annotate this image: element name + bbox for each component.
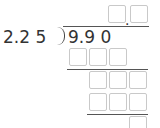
work-row-1-box-2[interactable] <box>89 48 107 66</box>
subtraction-line-1 <box>67 69 148 70</box>
subtraction-line-2 <box>87 114 148 115</box>
division-bracket <box>57 27 65 45</box>
work-row-2-box-2[interactable] <box>109 71 127 89</box>
dividend: 9.9 0 <box>68 29 111 46</box>
divisor: 2.2 5 <box>3 29 46 46</box>
work-row-2-box-3[interactable] <box>129 71 147 89</box>
quotient-box-1[interactable] <box>108 5 126 23</box>
work-row-3-box-3[interactable] <box>129 93 147 111</box>
work-row-1-box-1[interactable] <box>69 48 87 66</box>
work-row-3-box-2[interactable] <box>109 93 127 111</box>
remainder-box[interactable] <box>129 116 147 128</box>
work-row-1-box-3[interactable] <box>109 48 127 66</box>
quotient-box-2[interactable] <box>130 5 148 23</box>
work-row-2-box-1[interactable] <box>89 71 107 89</box>
work-row-3-box-1[interactable] <box>89 93 107 111</box>
